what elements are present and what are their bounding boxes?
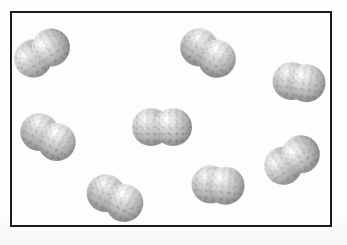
diatomic-bond-pair bbox=[12, 21, 77, 84]
diatomic-bond-pair bbox=[173, 21, 243, 85]
gas-particle-field bbox=[12, 13, 330, 225]
diatomic-bond-pair bbox=[270, 59, 328, 104]
diatomic-bond-pair bbox=[80, 167, 150, 225]
gas-container-box bbox=[10, 11, 332, 227]
molecular-diagram-figure bbox=[0, 0, 347, 245]
atom-sphere bbox=[154, 108, 192, 146]
diatomic-bond-pair bbox=[257, 128, 327, 192]
diatomic-bond-pair bbox=[190, 164, 246, 206]
diatomic-bond-pair bbox=[13, 106, 82, 168]
diatomic-bond-pair bbox=[132, 108, 192, 146]
